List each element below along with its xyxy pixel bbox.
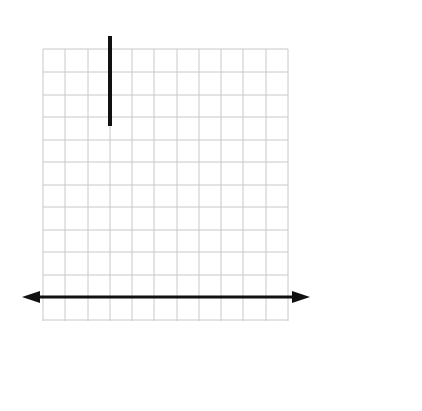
graph-canvas xyxy=(0,0,422,411)
x-axis-arrow-right xyxy=(292,291,310,303)
x-axis-arrow-left xyxy=(22,291,40,303)
grid xyxy=(43,49,288,321)
